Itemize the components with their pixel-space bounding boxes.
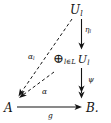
commutative-diagram: Ul ⊕l∈L Ul A B. ηl ψ g αl α xyxy=(0,0,111,123)
edge-label-eta-subscript: l xyxy=(90,28,92,34)
direct-sum-operand-symbol: U xyxy=(78,53,87,66)
node-u-l-top-symbol: U xyxy=(70,3,80,17)
node-a: A xyxy=(4,102,13,114)
direct-sum-icon: ⊕ xyxy=(53,51,64,66)
node-direct-sum-u-l: ⊕l∈L Ul xyxy=(53,52,89,66)
node-u-l-top: Ul xyxy=(70,4,83,18)
arrow-eta xyxy=(78,19,84,50)
arrow-psi xyxy=(78,68,84,99)
edge-label-eta: ηl xyxy=(85,26,91,34)
edge-label-alpha-symbol: α xyxy=(42,87,47,96)
node-b-symbol: B. xyxy=(86,101,99,115)
edge-label-psi: ψ xyxy=(88,76,94,84)
arrow-alpha xyxy=(19,72,54,98)
arrow-g xyxy=(17,104,82,110)
edge-label-psi-symbol: ψ xyxy=(88,75,94,84)
edge-label-g: g xyxy=(48,112,53,120)
direct-sum-index-subscript: l∈L xyxy=(64,58,76,66)
edge-label-alpha: α xyxy=(42,88,47,96)
node-b: B. xyxy=(86,102,99,114)
node-a-symbol: A xyxy=(4,101,13,115)
direct-sum-operand-subscript: l xyxy=(87,58,89,67)
edge-label-alpha-l: αl xyxy=(28,53,35,61)
node-u-l-top-subscript: l xyxy=(80,9,83,18)
edge-label-g-symbol: g xyxy=(48,111,53,120)
edge-label-alpha-l-subscript: l xyxy=(33,55,35,61)
